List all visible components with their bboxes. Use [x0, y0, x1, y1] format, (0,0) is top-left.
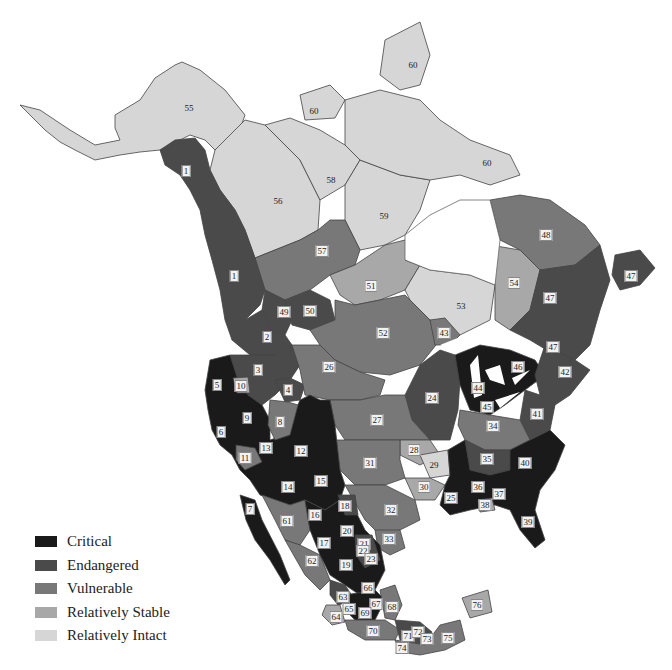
region-label-39: 39 — [522, 516, 535, 528]
region-label-70: 70 — [367, 625, 380, 637]
region-label-56: 56 — [272, 195, 285, 207]
region-label-36: 36 — [472, 481, 485, 493]
region-label-54: 54 — [508, 277, 521, 289]
region-label-60: 60 — [481, 157, 494, 169]
region-label-3: 3 — [254, 364, 263, 376]
region-label-15: 15 — [315, 475, 328, 487]
legend-swatch-critical — [35, 536, 57, 547]
region-label-20: 20 — [341, 525, 354, 537]
region-label-66: 66 — [362, 582, 375, 594]
region-label-41: 41 — [531, 408, 544, 420]
region-label-1: 1 — [230, 270, 239, 282]
region-label-27: 27 — [371, 414, 384, 426]
legend-item-vulnerable: Vulnerable — [35, 577, 170, 601]
legend-label: Relatively Stable — [67, 604, 170, 621]
region-label-47: 47 — [625, 270, 638, 282]
legend-item-relatively-intact: Relatively Intact — [35, 624, 170, 648]
legend-label: Vulnerable — [67, 580, 133, 597]
region-label-47: 47 — [547, 341, 560, 353]
region-label-38: 38 — [479, 499, 492, 511]
region-label-62: 62 — [306, 555, 319, 567]
region-label-73: 73 — [421, 633, 434, 645]
region-label-47: 47 — [544, 292, 557, 304]
legend-item-endangered: Endangered — [35, 554, 170, 578]
region-label-4: 4 — [284, 384, 293, 396]
legend-swatch-relatively-intact — [35, 630, 57, 641]
region-label-25: 25 — [445, 492, 458, 504]
region-label-50: 50 — [304, 305, 317, 317]
region-label-59: 59 — [378, 210, 391, 222]
region-label-10: 10 — [235, 380, 248, 392]
region-label-45: 45 — [481, 401, 494, 413]
legend-label: Relatively Intact — [67, 627, 167, 644]
region-label-46: 46 — [512, 361, 525, 373]
region-label-35: 35 — [481, 453, 494, 465]
map-legend: Critical Endangered Vulnerable Relativel… — [35, 530, 170, 648]
region-label-34: 34 — [487, 420, 500, 432]
region-label-8: 8 — [276, 416, 285, 428]
region-label-69: 69 — [359, 607, 372, 619]
region-label-68: 68 — [386, 601, 399, 613]
region-label-28: 28 — [408, 444, 421, 456]
region-label-1: 1 — [182, 165, 191, 177]
region-label-60: 60 — [308, 105, 321, 117]
legend-label: Critical — [67, 533, 112, 550]
region-label-30: 30 — [418, 481, 431, 493]
region-label-19: 19 — [340, 559, 353, 571]
region-label-9: 9 — [243, 412, 252, 424]
region-label-76: 76 — [471, 599, 484, 611]
region-label-13: 13 — [260, 442, 273, 454]
region-label-17: 17 — [318, 537, 331, 549]
region-label-33: 33 — [383, 533, 396, 545]
legend-swatch-relatively-stable — [35, 607, 57, 618]
region-label-16: 16 — [309, 509, 322, 521]
region-55-area — [20, 62, 245, 160]
region-label-18: 18 — [339, 500, 352, 512]
legend-swatch-endangered — [35, 560, 57, 571]
region-label-60: 60 — [407, 59, 420, 71]
legend-label: Endangered — [67, 557, 139, 574]
legend-swatch-vulnerable — [35, 583, 57, 594]
region-60-area — [380, 22, 430, 90]
region-label-48: 48 — [540, 229, 553, 241]
region-label-32: 32 — [385, 504, 398, 516]
region-label-12: 12 — [295, 445, 308, 457]
region-label-37: 37 — [493, 488, 506, 500]
region-label-43: 43 — [438, 327, 451, 339]
region-label-5: 5 — [213, 379, 222, 391]
region-label-11: 11 — [239, 452, 252, 464]
region-label-31: 31 — [364, 457, 377, 469]
region-label-29: 29 — [428, 459, 441, 471]
region-label-42: 42 — [559, 366, 572, 378]
region-label-7: 7 — [246, 503, 255, 515]
region-label-49: 49 — [278, 306, 291, 318]
region-label-55: 55 — [183, 102, 196, 114]
region-label-65: 65 — [343, 603, 356, 615]
region-label-24: 24 — [426, 392, 439, 404]
region-label-64: 64 — [330, 611, 343, 623]
region-label-58: 58 — [325, 174, 338, 186]
region-label-2: 2 — [263, 331, 272, 343]
region-label-57: 57 — [316, 245, 329, 257]
legend-item-critical: Critical — [35, 530, 170, 554]
region-label-53: 53 — [455, 300, 468, 312]
region-label-61: 61 — [281, 515, 294, 527]
legend-item-relatively-stable: Relatively Stable — [35, 601, 170, 625]
region-label-44: 44 — [472, 382, 485, 394]
region-label-52: 52 — [377, 327, 390, 339]
region-label-23: 23 — [365, 553, 378, 565]
region-label-26: 26 — [323, 361, 336, 373]
region-label-51: 51 — [365, 280, 378, 292]
region-label-74: 74 — [396, 642, 409, 654]
region-label-14: 14 — [282, 481, 295, 493]
region-label-63: 63 — [337, 591, 350, 603]
region-label-6: 6 — [217, 426, 226, 438]
region-label-75: 75 — [442, 632, 455, 644]
region-label-40: 40 — [519, 457, 532, 469]
